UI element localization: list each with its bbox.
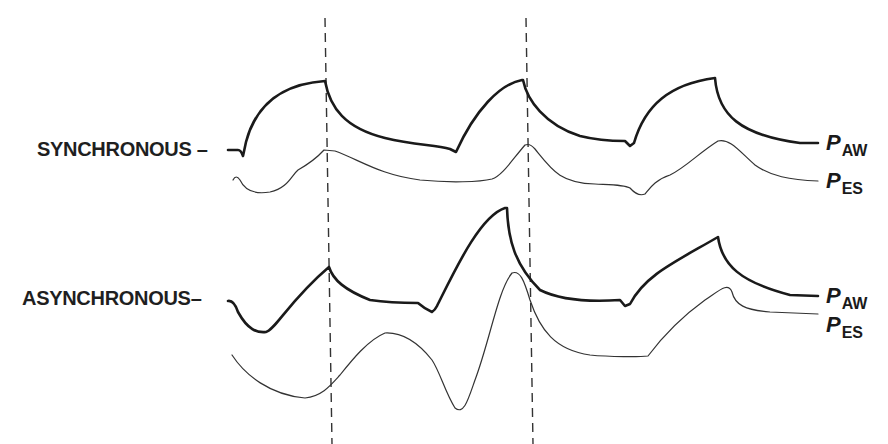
- waveform-diagram: [0, 0, 888, 444]
- synchronous-title: SYNCHRONOUS: [37, 138, 192, 160]
- sync-paw-trace: [228, 78, 818, 156]
- pressure-symbol: P: [826, 312, 841, 337]
- async-paw-label: PAW: [826, 283, 867, 309]
- pressure-subscript: AW: [842, 295, 868, 312]
- sync-paw-label: PAW: [826, 130, 867, 156]
- label-connector: –: [191, 287, 202, 309]
- label-connector: –: [197, 138, 208, 160]
- pressure-subscript: AW: [842, 142, 868, 159]
- sync-pes-label: PES: [826, 168, 863, 194]
- pressure-symbol: P: [826, 130, 841, 155]
- pressure-subscript: ES: [842, 324, 863, 341]
- async-paw-trace: [228, 208, 818, 332]
- pressure-symbol: P: [826, 168, 841, 193]
- pressure-symbol: P: [826, 283, 841, 308]
- dashed-marker-2: [526, 18, 533, 444]
- asynchronous-title: ASYNCHRONOUS: [22, 287, 191, 309]
- sync-pes-trace: [233, 141, 818, 195]
- asynchronous-label: ASYNCHRONOUS–: [22, 287, 201, 310]
- pressure-subscript: ES: [842, 180, 863, 197]
- async-pes-trace: [232, 272, 818, 409]
- async-pes-label: PES: [826, 312, 863, 338]
- synchronous-label: SYNCHRONOUS –: [37, 138, 208, 161]
